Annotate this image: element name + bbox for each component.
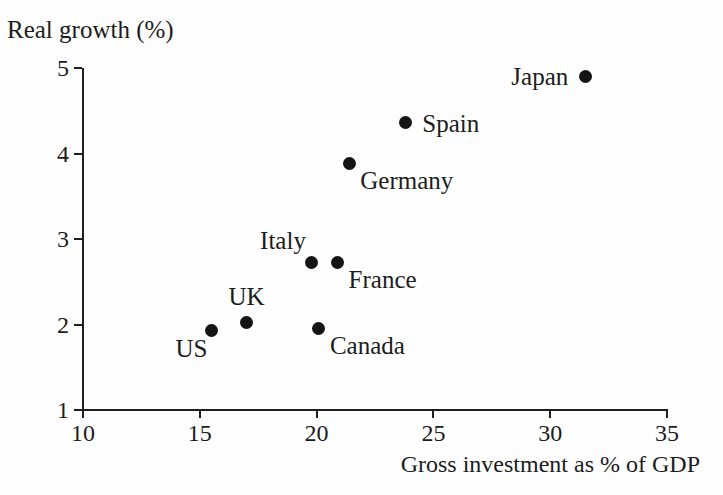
x-tick-10 <box>82 410 84 418</box>
x-tick-label-15: 15 <box>168 420 232 446</box>
data-point-spain <box>399 116 412 129</box>
data-point-italy <box>305 256 318 269</box>
point-label-canada: Canada <box>330 333 405 359</box>
y-tick-label-4: 4 <box>27 141 69 167</box>
x-axis-title: Gross investment as % of GDP <box>401 450 700 478</box>
y-tick-label-2: 2 <box>27 312 69 338</box>
point-label-spain: Spain <box>422 111 479 137</box>
data-point-germany <box>343 157 356 170</box>
data-point-uk <box>240 316 253 329</box>
x-tick-label-10: 10 <box>51 420 115 446</box>
x-tick-20 <box>316 410 318 418</box>
y-tick-label-3: 3 <box>27 226 69 252</box>
x-tick-15 <box>199 410 201 418</box>
x-tick-label-35: 35 <box>635 420 699 446</box>
y-axis-title: Real growth (%) <box>7 16 174 44</box>
x-tick-label-30: 30 <box>518 420 582 446</box>
point-label-germany: Germany <box>360 168 453 194</box>
point-label-italy: Italy <box>260 228 306 254</box>
point-label-us: US <box>176 336 208 362</box>
y-tick-4 <box>74 153 82 155</box>
x-tick-30 <box>549 410 551 418</box>
data-point-france <box>331 256 344 269</box>
data-point-canada <box>312 322 325 335</box>
x-axis-line <box>82 409 668 411</box>
scatter-plot-figure: Real growth (%) Gross investment as % of… <box>0 0 723 495</box>
point-label-uk: UK <box>228 284 264 310</box>
x-tick-25 <box>432 410 434 418</box>
y-axis-line <box>82 68 84 415</box>
x-tick-35 <box>666 410 668 418</box>
y-tick-3 <box>74 238 82 240</box>
y-tick-2 <box>74 324 82 326</box>
y-tick-5 <box>74 67 82 69</box>
data-point-japan <box>579 70 592 83</box>
y-tick-label-5: 5 <box>27 55 69 81</box>
x-tick-label-20: 20 <box>285 420 349 446</box>
x-tick-label-25: 25 <box>401 420 465 446</box>
y-tick-1 <box>74 409 82 411</box>
point-label-japan: Japan <box>511 64 568 90</box>
point-label-france: France <box>349 267 417 293</box>
